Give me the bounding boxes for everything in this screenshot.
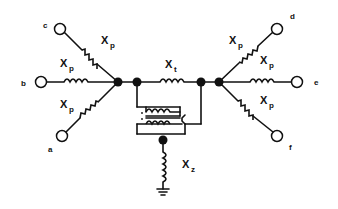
svg-text:X: X (260, 94, 268, 106)
label-xp-c: X p (101, 34, 115, 50)
label-b: b (21, 79, 26, 88)
terminal-b (36, 77, 47, 88)
branch-b (46, 79, 118, 82)
node-right-inner (197, 78, 206, 87)
node-right-hub (215, 78, 224, 87)
node-left-inner (133, 78, 142, 87)
svg-text:p: p (269, 61, 274, 70)
label-xz: X z (182, 158, 195, 174)
svg-text:p: p (69, 105, 74, 114)
node-transformer-neutral (159, 136, 168, 145)
label-d: d (290, 12, 295, 21)
svg-text:X: X (60, 98, 68, 110)
svg-text:p: p (269, 101, 274, 110)
svg-text:X: X (229, 34, 237, 46)
svg-text:X: X (101, 34, 109, 46)
label-xt: X t (165, 58, 177, 74)
svg-text:X: X (260, 54, 268, 66)
node-left-hub (114, 78, 123, 87)
svg-text:X: X (165, 58, 173, 70)
circuit-diagram: c b a d e f X p X p X p X p X p X p X t … (0, 0, 338, 209)
label-c: c (43, 21, 48, 30)
transformer (141, 107, 180, 124)
svg-text:p: p (110, 41, 115, 50)
label-xp-d: X p (229, 34, 243, 50)
svg-text:t: t (174, 65, 177, 74)
terminal-c (55, 24, 66, 35)
terminal-d (272, 24, 283, 35)
xz-branch (157, 140, 169, 195)
polarity-dot-primary (141, 112, 143, 114)
svg-text:z: z (191, 165, 195, 174)
branch-e (219, 79, 292, 82)
terminal-e (292, 77, 303, 88)
label-xp-b: X p (60, 57, 74, 73)
svg-text:X: X (182, 158, 190, 170)
terminal-f (272, 131, 283, 142)
label-f: f (289, 143, 292, 152)
svg-text:X: X (60, 57, 68, 69)
branch-f (219, 82, 273, 132)
terminal-a (57, 131, 68, 142)
transformer-primary (146, 109, 170, 112)
label-e: e (314, 78, 319, 87)
svg-text:p: p (69, 64, 74, 73)
polarity-dot-secondary (141, 118, 143, 120)
label-xp-e: X p (260, 54, 274, 70)
schematic-svg: c b a d e f X p X p X p X p X p X p X t … (0, 0, 338, 209)
xz-coil (163, 152, 166, 182)
label-xp-f: X p (260, 94, 274, 110)
label-xp-a: X p (60, 98, 74, 114)
xt-coil (160, 79, 184, 82)
branch-c (64, 32, 118, 82)
label-a: a (48, 145, 53, 154)
svg-text:p: p (238, 41, 243, 50)
